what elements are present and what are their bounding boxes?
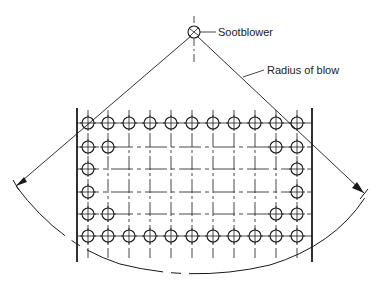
- sootblower-diagram: [0, 0, 379, 282]
- sootblower-label: Sootblower: [218, 27, 273, 38]
- blow-radius-line-left: [16, 36, 191, 186]
- radius-leader: [243, 70, 264, 77]
- radius-of-blow-label: Radius of blow: [267, 65, 339, 76]
- blow-radius-line-right: [197, 36, 364, 193]
